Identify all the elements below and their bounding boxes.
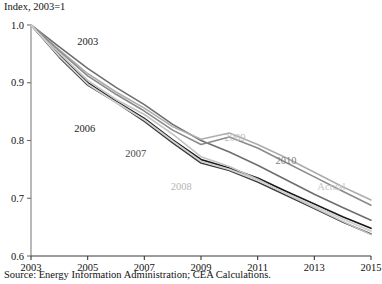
series-label-2006: 2006 <box>74 123 95 134</box>
axis-lines <box>27 25 371 260</box>
x-tick-2015: 2015 <box>361 262 382 273</box>
series-line-2010 <box>31 25 371 205</box>
line-chart-plot: 1.00.90.80.70.6 200320052007200920112013… <box>0 0 382 284</box>
chart-figure: Index, 2003=1 1.00.90.80.70.6 2003200520… <box>0 0 382 284</box>
series-label-2010: 2010 <box>276 155 297 166</box>
y-tick-1.0: 1.0 <box>11 20 24 31</box>
y-tick-0.9: 0.9 <box>11 77 24 88</box>
series-line-2009 <box>31 25 371 200</box>
source-note: Source: Energy Information Administratio… <box>4 269 271 281</box>
y-tick-0.8: 0.8 <box>11 135 24 146</box>
x-tick-2013: 2013 <box>304 262 325 273</box>
series-annotations: 200320062007200820092010Actual <box>74 36 345 192</box>
series-label-actual: Actual <box>317 181 345 192</box>
y-tick-0.7: 0.7 <box>11 193 24 204</box>
series-label-2009: 2009 <box>225 132 246 143</box>
series-label-2003: 2003 <box>77 36 98 47</box>
y-axis-tick-labels: 1.00.90.80.70.6 <box>11 20 24 262</box>
series-label-2007: 2007 <box>125 148 146 159</box>
series-label-2008: 2008 <box>171 181 192 192</box>
y-tick-0.6: 0.6 <box>11 251 24 262</box>
